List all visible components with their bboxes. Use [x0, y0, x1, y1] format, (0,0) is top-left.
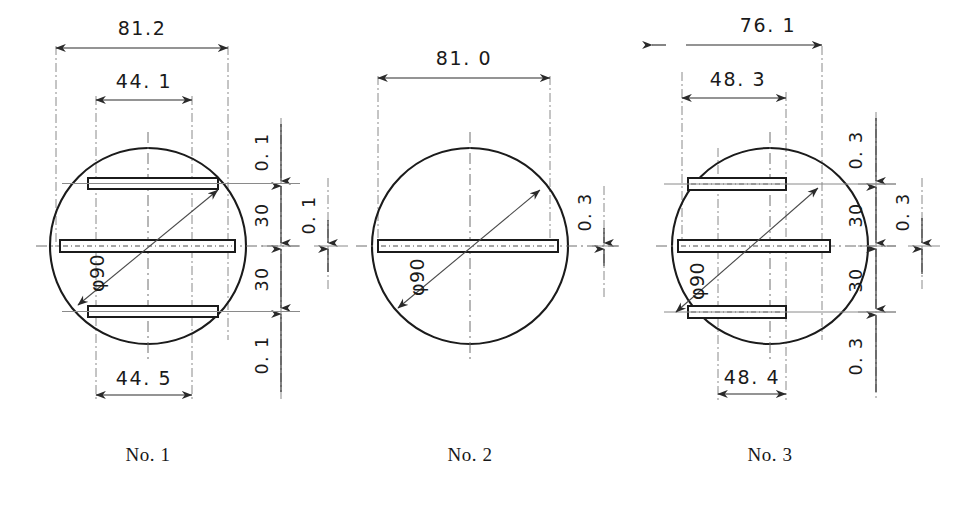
no1-dim-right-outer	[314, 220, 348, 272]
no2-diameter-label: φ90	[406, 258, 428, 296]
no1-dim-right-outer-label: 0. 1	[299, 196, 319, 235]
no3-chain-label-1: 0. 3	[846, 131, 866, 170]
no1-diameter-label: φ90	[86, 254, 108, 292]
no3-dim-right-outer-label: 0. 3	[893, 193, 913, 232]
drawing-sheet: φ90 81.2 44. 1 44. 5 0. 1 30 30 0. 1	[0, 0, 958, 507]
no3-chain-label-4: 0. 3	[846, 337, 866, 376]
view-no3: φ90 76. 1 48. 3 48. 4 0. 3 30 30 0.	[652, 14, 940, 465]
no2-dim-right-outer	[592, 228, 618, 266]
no3-extension-lines	[682, 46, 922, 400]
technical-drawing-canvas: φ90 81.2 44. 1 44. 5 0. 1 30 30 0. 1	[0, 0, 958, 507]
no1-chain-label-2: 30	[252, 202, 272, 227]
no1-dim-top-inner-label: 44. 1	[116, 70, 172, 92]
view-no1: φ90 81.2 44. 1 44. 5 0. 1 30 30 0. 1	[36, 17, 348, 465]
caption-no2: No. 2	[447, 444, 492, 465]
no2-dim-right-outer-label: 0. 3	[575, 193, 595, 232]
no1-chain-label-1: 0. 1	[252, 133, 272, 172]
no3-dim-top-outer-label: 76. 1	[740, 14, 796, 36]
no1-chain-label-4: 0. 1	[252, 336, 272, 375]
no1-dim-top-outer-label: 81.2	[118, 17, 167, 39]
no3-chain-label-2: 30	[846, 202, 866, 227]
no1-chain-label-3: 30	[252, 266, 272, 291]
no3-dim-bottom-inner-label: 48. 4	[724, 366, 780, 388]
no1-extension-lines	[56, 46, 328, 400]
no3-dim-top-inner-label: 48. 3	[710, 68, 766, 90]
no3-chain-label-3: 30	[846, 267, 866, 292]
caption-no1: No. 1	[125, 444, 170, 465]
no1-dim-bottom-inner-label: 44. 5	[116, 367, 172, 389]
caption-no3: No. 3	[747, 444, 792, 465]
no2-dim-top-outer-label: 81. 0	[436, 47, 492, 69]
no3-slot-middle	[678, 240, 830, 252]
no1-slot-middle	[60, 240, 235, 252]
view-no2: φ90 81. 0 0. 3 No. 2	[356, 47, 620, 465]
no3-diameter-label: φ90	[686, 262, 708, 300]
